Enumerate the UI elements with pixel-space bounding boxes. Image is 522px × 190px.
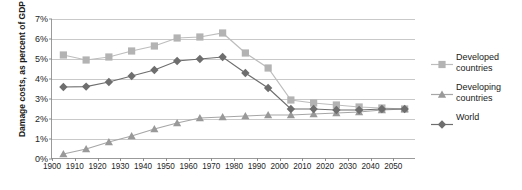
data-point-diamond	[218, 53, 226, 61]
data-point-diamond	[438, 120, 446, 128]
x-axis-tick-label: 2020	[316, 162, 334, 171]
data-point-square	[105, 53, 112, 60]
x-axis-tick-label: 1960	[179, 162, 197, 171]
series-layer	[52, 19, 416, 159]
series-developing-countries	[59, 105, 408, 157]
x-axis-tick-label: 1950	[157, 162, 175, 171]
data-point-diamond	[127, 72, 135, 80]
x-axis-tick-label: 1940	[134, 162, 152, 171]
x-axis-tick-label: 2040	[361, 162, 379, 171]
data-point-square	[83, 56, 90, 63]
data-point-square	[287, 96, 294, 103]
x-axis-tick-label: 1900	[43, 162, 61, 171]
legend-label-line2: countries	[456, 93, 521, 104]
legend-label: Developingcountries	[456, 82, 521, 103]
data-point-square	[265, 64, 272, 71]
legend-marker-triangle-icon	[431, 85, 453, 94]
x-axis-tick-label: 2000	[270, 162, 288, 171]
legend-label-line1: Developed	[456, 52, 521, 63]
data-point-square	[174, 34, 181, 41]
data-point-diamond	[59, 83, 67, 91]
x-axis-tick-label: 1930	[111, 162, 129, 171]
legend-label-line1: World	[456, 112, 521, 123]
data-point-diamond	[173, 57, 181, 65]
y-axis-tick-label: 3%	[35, 94, 48, 104]
y-axis-tick-label: 5%	[35, 54, 48, 64]
data-point-square	[128, 47, 135, 54]
y-axis-title: Damage costs, as percent of GDP	[17, 0, 27, 149]
x-axis-tick-label: 1990	[248, 162, 266, 171]
x-axis-tick-label: 1980	[225, 162, 243, 171]
x-axis-tick-label: 2010	[293, 162, 311, 171]
y-axis-tick-label: 7%	[35, 14, 48, 24]
legend-label: World	[456, 112, 521, 123]
y-axis-tick-label: 2%	[35, 114, 48, 124]
y-axis-tick-label: 4%	[35, 74, 48, 84]
data-point-square	[151, 42, 158, 49]
legend-label: Developedcountries	[456, 52, 521, 73]
data-point-diamond	[196, 55, 204, 63]
series-developed-countries	[60, 29, 408, 112]
legend-label-line1: Developing	[456, 82, 521, 93]
legend-item[interactable]: Developedcountries	[431, 52, 521, 73]
x-axis-tick-label: 1970	[202, 162, 220, 171]
series-line	[63, 57, 404, 110]
legend-marker-square-icon	[431, 55, 453, 64]
legend-label-line2: countries	[456, 63, 521, 74]
series-line	[63, 109, 404, 154]
series-line	[63, 33, 404, 109]
data-point-square	[219, 29, 226, 36]
x-axis-tick-label: 2030	[339, 162, 357, 171]
data-point-diamond	[241, 69, 249, 77]
data-point-diamond	[82, 82, 90, 90]
data-point-square	[242, 49, 249, 56]
data-point-square	[438, 61, 445, 68]
x-axis-tick-label: 2050	[384, 162, 402, 171]
y-axis-tick-label: 6%	[35, 34, 48, 44]
y-axis-tick-label: 1%	[35, 134, 48, 144]
legend: DevelopedcountriesDevelopingcountriesWor…	[431, 52, 521, 132]
data-point-diamond	[150, 66, 158, 74]
x-axis-tick-label: 1910	[66, 162, 84, 171]
legend-item[interactable]: Developingcountries	[431, 82, 521, 103]
plot-area: 0%1%2%3%4%5%6%7% 19001910192019301940195…	[51, 19, 415, 159]
data-point-diamond	[105, 78, 113, 86]
data-point-square	[60, 51, 67, 58]
legend-item[interactable]: World	[431, 112, 521, 123]
data-point-square	[196, 33, 203, 40]
x-axis-tick-label: 1920	[88, 162, 106, 171]
chart-container: Damage costs, as percent of GDP 0%1%2%3%…	[0, 0, 522, 190]
legend-marker-diamond-icon	[431, 115, 453, 124]
